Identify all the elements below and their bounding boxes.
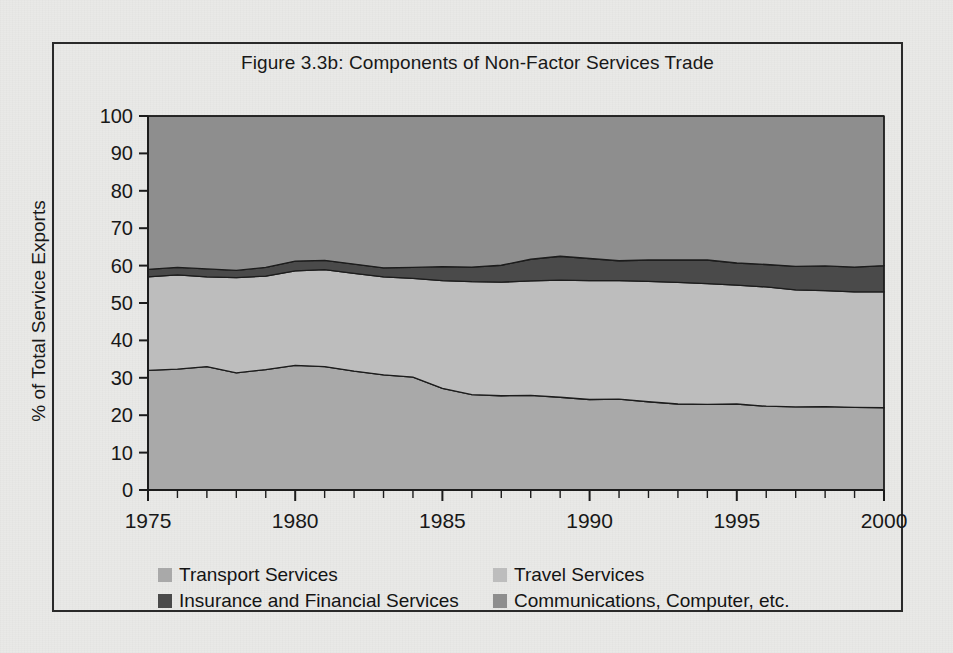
- x-tick-label: 1975: [108, 510, 188, 531]
- x-tick-label: 1990: [550, 510, 630, 531]
- y-tick-label: 10: [81, 443, 133, 463]
- stacked-area-chart: [0, 0, 953, 653]
- x-tick-label: 1985: [402, 510, 482, 531]
- legend-swatch-icon: [158, 594, 172, 608]
- plot-area: % of Total Service Exports 1009080706050…: [0, 0, 953, 653]
- legend-item: Communications, Computer, etc.: [493, 590, 843, 612]
- legend-item: Insurance and Financial Services: [158, 590, 493, 612]
- legend-label: Transport Services: [179, 564, 338, 586]
- y-tick-label: 70: [81, 218, 133, 238]
- x-tick-label: 1980: [255, 510, 335, 531]
- y-tick-label: 0: [81, 480, 133, 500]
- y-tick-label: 50: [81, 293, 133, 313]
- chart-legend: Transport ServicesTravel ServicesInsuran…: [158, 562, 858, 614]
- x-tick-label: 2000: [844, 510, 924, 531]
- y-tick-label: 20: [81, 405, 133, 425]
- y-tick-label: 100: [81, 106, 133, 126]
- y-tick-label: 80: [81, 181, 133, 201]
- y-tick-label: 30: [81, 368, 133, 388]
- x-tick-label: 1995: [697, 510, 777, 531]
- legend-label: Insurance and Financial Services: [179, 590, 459, 612]
- legend-swatch-icon: [493, 594, 507, 608]
- legend-item: Transport Services: [158, 564, 493, 586]
- legend-swatch-icon: [493, 568, 507, 582]
- y-tick-label: 40: [81, 330, 133, 350]
- legend-swatch-icon: [158, 568, 172, 582]
- legend-item: Travel Services: [493, 564, 843, 586]
- y-tick-label: 60: [81, 256, 133, 276]
- y-tick-label: 90: [81, 143, 133, 163]
- area-series-3: [148, 116, 884, 270]
- legend-label: Communications, Computer, etc.: [514, 590, 790, 612]
- legend-label: Travel Services: [514, 564, 644, 586]
